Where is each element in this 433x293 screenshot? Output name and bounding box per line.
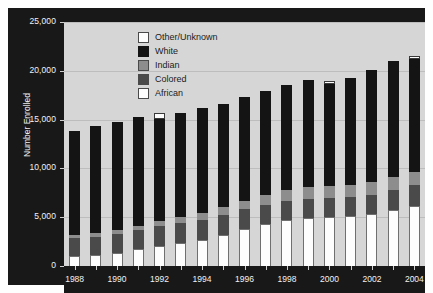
bar-segment-african: [409, 206, 420, 267]
bar-segment-indian: [154, 221, 165, 226]
bar-segment-white: [303, 80, 314, 187]
bar-segment-colored: [133, 230, 144, 250]
bar-segment-white: [69, 131, 80, 234]
bar-2004: [409, 22, 420, 266]
legend-label: Colored: [155, 74, 187, 84]
bar-segment-colored: [281, 201, 292, 221]
x-axis-tick-label: 2004: [405, 274, 424, 284]
bar-segment-indian: [239, 201, 250, 210]
bar-2000: [324, 22, 335, 266]
x-axis-tick-mark: [414, 266, 415, 270]
x-axis-tick-mark: [287, 266, 288, 270]
bar-segment-indian: [175, 217, 186, 223]
x-axis-tick-mark: [75, 266, 76, 270]
bar-segment-colored: [239, 209, 250, 229]
bar-segment-colored: [366, 195, 377, 215]
y-axis-tick-label: 10,000: [29, 162, 56, 172]
bar-segment-indian: [90, 233, 101, 236]
x-axis-tick-label: 2000: [320, 274, 339, 284]
bar-1990: [112, 22, 123, 266]
bar-1998: [281, 22, 292, 266]
bar-1988: [69, 22, 80, 266]
x-axis-tick-mark: [329, 266, 330, 270]
bar-segment-indian: [218, 207, 229, 215]
bar-segment-colored: [303, 199, 314, 219]
legend-swatch-icon: [138, 60, 149, 71]
x-axis-tick-mark: [223, 266, 224, 270]
bar-segment-indian: [409, 172, 420, 185]
x-axis-tick-label: 1998: [278, 274, 297, 284]
x-axis-tick-mark: [245, 266, 246, 270]
bar-segment-white: [324, 84, 335, 186]
x-axis-tick-label: 1996: [235, 274, 254, 284]
bar-segment-african: [69, 256, 80, 266]
bar-1997: [260, 22, 271, 266]
x-axis-tick-mark: [372, 266, 373, 270]
bar-2003: [388, 22, 399, 266]
bar-1989: [90, 22, 101, 266]
bar-segment-colored: [154, 226, 165, 246]
bar-segment-white: [260, 91, 271, 194]
bar-segment-african: [133, 249, 144, 266]
bar-segment-african: [112, 253, 123, 266]
x-axis-tick-label: 1988: [65, 274, 84, 284]
bar-segment-white: [345, 78, 356, 185]
bar-segment-white: [112, 122, 123, 230]
bar-segment-white: [366, 70, 377, 182]
bar-segment-african: [197, 240, 208, 266]
bar-segment-colored: [388, 190, 399, 210]
bar-segment-african: [239, 229, 250, 266]
bar-segment-african: [175, 243, 186, 266]
bar-segment-african: [303, 218, 314, 266]
bar-segment-white: [175, 113, 186, 217]
bar-2001: [345, 22, 356, 266]
x-axis-tick-mark: [202, 266, 203, 270]
bar-segment-colored: [218, 215, 229, 235]
bar-1996: [239, 22, 250, 266]
x-axis-tick-label: 1990: [108, 274, 127, 284]
bar-segment-white: [218, 104, 229, 207]
bar-segment-colored: [175, 223, 186, 243]
bar-segment-colored: [197, 220, 208, 240]
x-axis-tick-label: 1994: [193, 274, 212, 284]
x-axis-tick-mark: [117, 266, 118, 270]
x-axis-tick-mark: [181, 266, 182, 270]
legend-swatch-icon: [138, 74, 149, 85]
legend-item-white: White: [138, 44, 218, 58]
bar-segment-african: [281, 220, 292, 266]
bar-segment-indian: [281, 190, 292, 201]
bar-segment-white: [154, 119, 165, 221]
y-axis-tick-label: 15,000: [29, 114, 56, 124]
bar-segment-indian: [197, 213, 208, 220]
bar-segment-colored: [90, 237, 101, 256]
bar-segment-indian: [324, 186, 335, 198]
bar-segment-white: [197, 108, 208, 213]
bar-segment-indian: [133, 226, 144, 230]
bar-1995: [218, 22, 229, 266]
legend-label: Other/Unknown: [155, 32, 218, 42]
bar-segment-colored: [409, 185, 420, 205]
legend-item-colored: Colored: [138, 72, 218, 86]
bar-segment-colored: [260, 205, 271, 225]
bar-2002: [366, 22, 377, 266]
bar-segment-african: [154, 246, 165, 266]
legend-item-african: African: [138, 86, 218, 100]
bar-segment-indian: [388, 177, 399, 190]
x-axis-tick-mark: [308, 266, 309, 270]
bar-segment-white: [90, 126, 101, 233]
legend-label: African: [155, 88, 183, 98]
y-axis-tick-label: 0: [51, 260, 56, 270]
bar-segment-african: [324, 217, 335, 266]
bar-segment-white: [239, 97, 250, 200]
x-axis-tick-mark: [160, 266, 161, 270]
plot-area: Other/UnknownWhiteIndianColoredAfrican: [64, 22, 425, 266]
bar-1999: [303, 22, 314, 266]
bar-segment-colored: [69, 238, 80, 257]
bar-segment-other-unknown: [154, 113, 165, 119]
chart-legend: Other/UnknownWhiteIndianColoredAfrican: [138, 30, 218, 100]
chart-frame: Number Enrolled 05,00010,00015,00020,000…: [8, 8, 425, 285]
x-axis-tick-mark: [351, 266, 352, 270]
legend-item-other-unknown: Other/Unknown: [138, 30, 218, 44]
bar-segment-african: [260, 224, 271, 266]
bar-segment-white: [409, 59, 420, 172]
